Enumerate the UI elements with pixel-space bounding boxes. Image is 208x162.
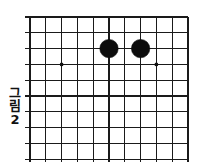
go-board bbox=[0, 0, 208, 162]
figure-container: 그 림 2 bbox=[0, 0, 208, 162]
grid-vertical-lines bbox=[30, 17, 188, 162]
stone-black-2 bbox=[131, 39, 149, 57]
star-point-1 bbox=[60, 63, 64, 67]
stone-black-1 bbox=[100, 39, 118, 57]
go-board-svg bbox=[0, 0, 208, 162]
grid-horizontal-lines bbox=[25, 17, 188, 159]
star-point-2 bbox=[155, 63, 159, 67]
